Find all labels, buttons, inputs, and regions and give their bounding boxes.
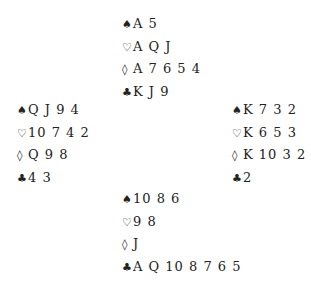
east-clubs: ♣2 bbox=[232, 167, 306, 190]
heart-icon: ♡ bbox=[122, 37, 133, 60]
spade-icon: ♠ bbox=[232, 100, 243, 123]
east-hearts: ♡K 6 5 3 bbox=[232, 122, 306, 145]
north-clubs: ♣K J 9 bbox=[122, 81, 201, 104]
west-hearts: ♡10 7 4 2 bbox=[17, 122, 90, 145]
north-diamonds: ◊A 7 6 5 4 bbox=[122, 58, 201, 81]
east-spades: ♠K 7 3 2 bbox=[232, 99, 306, 122]
north-hand: ♠A 5 ♡A Q J ◊A 7 6 5 4 ♣K J 9 bbox=[122, 13, 201, 103]
spade-icon: ♠ bbox=[17, 100, 28, 123]
club-icon: ♣ bbox=[122, 257, 133, 280]
heart-icon: ♡ bbox=[17, 123, 28, 146]
club-icon: ♣ bbox=[122, 82, 133, 105]
south-hand: ♠10 8 6 ♡9 8 ◊J ♣A Q 10 8 7 6 5 bbox=[122, 188, 241, 278]
north-spades: ♠A 5 bbox=[122, 13, 201, 36]
east-diamonds: ◊K 10 3 2 bbox=[232, 144, 306, 167]
south-diamonds: ◊J bbox=[122, 233, 241, 256]
spade-icon: ♠ bbox=[122, 189, 133, 212]
diamond-icon: ◊ bbox=[122, 234, 133, 257]
diamond-icon: ◊ bbox=[232, 145, 243, 168]
west-spades: ♠Q J 9 4 bbox=[17, 99, 90, 122]
heart-icon: ♡ bbox=[232, 123, 243, 146]
west-clubs: ♣4 3 bbox=[17, 167, 90, 190]
diamond-icon: ◊ bbox=[17, 145, 28, 168]
south-spades: ♠10 8 6 bbox=[122, 188, 241, 211]
diamond-icon: ◊ bbox=[122, 59, 133, 82]
heart-icon: ♡ bbox=[122, 212, 133, 235]
west-diamonds: ◊Q 9 8 bbox=[17, 144, 90, 167]
south-clubs: ♣A Q 10 8 7 6 5 bbox=[122, 256, 241, 279]
club-icon: ♣ bbox=[17, 168, 28, 191]
club-icon: ♣ bbox=[232, 168, 243, 191]
south-hearts: ♡9 8 bbox=[122, 211, 241, 234]
east-hand: ♠K 7 3 2 ♡K 6 5 3 ◊K 10 3 2 ♣2 bbox=[232, 99, 306, 189]
north-hearts: ♡A Q J bbox=[122, 36, 201, 59]
spade-icon: ♠ bbox=[122, 14, 133, 37]
west-hand: ♠Q J 9 4 ♡10 7 4 2 ◊Q 9 8 ♣4 3 bbox=[17, 99, 90, 189]
